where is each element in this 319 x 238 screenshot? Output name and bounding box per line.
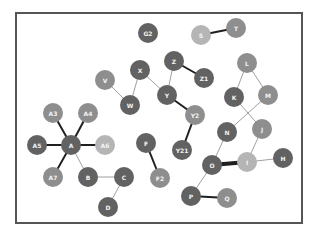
node-s[interactable]: S (191, 25, 211, 45)
node-k[interactable]: K (224, 87, 244, 107)
node-n[interactable]: N (217, 122, 237, 142)
node-w[interactable]: W (120, 95, 140, 115)
node-label: S (199, 32, 203, 39)
node-label: A7 (49, 174, 58, 181)
node-label: Q (224, 195, 229, 202)
node-p[interactable]: P (181, 186, 201, 206)
node-t[interactable]: T (226, 18, 246, 38)
node-a[interactable]: A (61, 135, 81, 155)
node-label: I (246, 159, 248, 166)
node-a3[interactable]: A3 (43, 103, 63, 123)
node-label: A5 (33, 142, 42, 149)
node-i[interactable]: I (237, 152, 257, 172)
node-label: Y21 (175, 147, 189, 154)
node-h[interactable]: H (273, 148, 293, 168)
node-a7[interactable]: A7 (43, 167, 63, 187)
node-c[interactable]: C (114, 167, 134, 187)
node-a6[interactable]: A6 (95, 135, 115, 155)
node-f2[interactable]: F2 (150, 168, 170, 188)
node-y2[interactable]: Y2 (185, 105, 205, 125)
node-q[interactable]: Q (217, 188, 237, 208)
node-label: N (224, 129, 229, 136)
node-label: X (138, 67, 143, 74)
node-label: Z1 (200, 75, 209, 82)
node-label: Z (172, 58, 177, 65)
network-graph: G2STZZ1XVWYY2Y21LKMNJOIHPQA3A4A5AA6A7BCD… (0, 0, 319, 238)
node-label: Y2 (190, 112, 200, 119)
node-label: D (106, 204, 111, 211)
node-z1[interactable]: Z1 (194, 68, 214, 88)
node-f[interactable]: F (136, 133, 156, 153)
node-label: P (189, 193, 194, 200)
node-y21[interactable]: Y21 (172, 140, 192, 160)
node-y[interactable]: Y (157, 85, 177, 105)
node-v[interactable]: V (95, 70, 115, 90)
node-x[interactable]: X (130, 60, 150, 80)
node-z[interactable]: Z (164, 51, 184, 71)
node-label: G2 (143, 30, 152, 37)
node-label: W (127, 102, 134, 109)
node-g2[interactable]: G2 (138, 23, 158, 43)
node-a4[interactable]: A4 (78, 103, 98, 123)
node-d[interactable]: D (98, 197, 118, 217)
node-label: K (232, 94, 237, 101)
node-label: A4 (84, 110, 93, 117)
node-label: M (265, 92, 271, 99)
node-b[interactable]: B (78, 167, 98, 187)
node-label: F2 (156, 175, 164, 182)
node-l[interactable]: L (237, 53, 257, 73)
node-label: A6 (101, 142, 110, 149)
node-label: L (245, 60, 249, 67)
node-m[interactable]: M (258, 85, 278, 105)
node-label: V (103, 77, 108, 84)
node-label: C (122, 174, 127, 181)
node-label: J (260, 126, 263, 134)
node-o[interactable]: O (202, 155, 222, 175)
node-label: O (209, 162, 214, 169)
node-j[interactable]: J (252, 119, 272, 139)
node-label: F (144, 140, 148, 147)
node-label: B (86, 174, 91, 181)
node-label: A3 (49, 110, 58, 117)
node-label: A (69, 142, 74, 149)
graph-nodes: G2STZZ1XVWYY2Y21LKMNJOIHPQA3A4A5AA6A7BCD… (27, 18, 293, 217)
node-label: H (280, 155, 285, 162)
node-label: Y (164, 92, 170, 99)
node-a5[interactable]: A5 (27, 135, 47, 155)
